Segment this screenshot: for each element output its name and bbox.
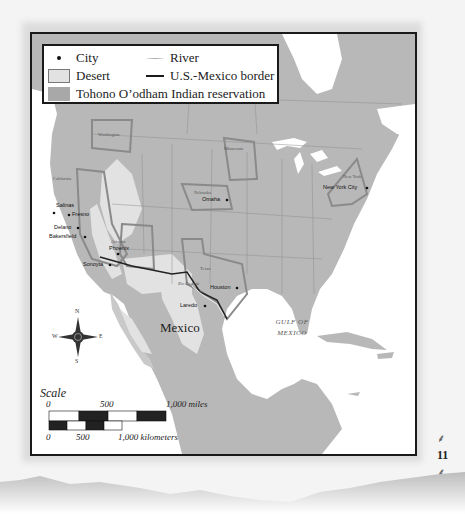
- river-line-icon: [146, 58, 164, 59]
- compass-s-label: S: [75, 358, 78, 364]
- city-label-new-york-city: New York City: [323, 184, 357, 190]
- scale-miles-1000: 1,000 miles: [166, 399, 208, 409]
- legend-desert-label: Desert: [76, 68, 110, 84]
- map-frame: City River Desert U.S.-Mexico border Toh…: [30, 32, 417, 456]
- reservation-swatch-icon: [48, 87, 70, 101]
- scale-miles-0: 0: [46, 399, 51, 409]
- gulf-label-line1: GULF OF: [252, 317, 332, 328]
- legend-reservation: Tohono O’odham Indian reservation: [48, 86, 265, 102]
- scale-bar-km: [49, 421, 122, 430]
- country-label-mexico: Mexico: [160, 320, 200, 336]
- torn-paper-edge: [0, 470, 465, 514]
- city-label-delano: Delano: [54, 224, 71, 230]
- city-label-salinas: Salinas: [56, 202, 74, 208]
- city-label-phoenix: Phoenix: [109, 245, 129, 251]
- state-label-washington: Washington: [98, 132, 119, 137]
- state-label-new-york: New York: [343, 174, 361, 179]
- scale-title: Scale: [40, 386, 66, 401]
- caribbean-islands: [347, 352, 394, 396]
- legend-river: River: [146, 50, 199, 66]
- compass-w-label: W: [52, 333, 58, 339]
- desert-swatch-icon: [48, 69, 70, 83]
- legend-border: U.S.-Mexico border: [146, 68, 274, 84]
- compass-e-label: E: [99, 333, 103, 339]
- legend-city-label: City: [76, 50, 98, 66]
- state-label-arizona: Arizona: [111, 239, 126, 244]
- state-label-minnesota: Minnesota: [224, 146, 243, 151]
- city-label-laredo: Laredo: [180, 302, 197, 308]
- page-number: 11: [437, 448, 448, 463]
- legend-desert: Desert: [48, 68, 110, 84]
- city-label-houston: Houston: [210, 284, 231, 290]
- gulf-of-mexico-label: GULF OF MEXICO: [252, 317, 332, 339]
- border-line-icon: [146, 75, 164, 77]
- city-label-fresno: Fresno: [72, 211, 89, 217]
- state-label-texas: Texas: [200, 266, 210, 271]
- scale-km-1000: 1,000 kilometers: [118, 432, 178, 442]
- scale-miles-500: 500: [100, 399, 114, 409]
- city-label-omaha: Omaha: [202, 196, 220, 202]
- legend-river-label: River: [170, 50, 199, 66]
- city-label-sonoyta: Sonoyta: [83, 261, 103, 267]
- city-dot-icon: [57, 56, 61, 60]
- compass-rose-graphic: [58, 317, 98, 357]
- scale-km-0: 0: [46, 432, 51, 442]
- city-label-bakersfield: Bakersfield: [49, 233, 76, 239]
- river-label-rio-grande: Rio Grande: [178, 281, 199, 286]
- scale-km-500: 500: [76, 432, 90, 442]
- map-legend: City River Desert U.S.-Mexico border Toh…: [42, 44, 279, 104]
- ornament-top-icon: ⸙: [437, 430, 445, 445]
- gulf-label-line2: MEXICO: [252, 328, 332, 339]
- legend-border-label: U.S.-Mexico border: [170, 68, 274, 84]
- compass-n-label: N: [75, 308, 79, 314]
- legend-reservation-label: Tohono O’odham Indian reservation: [76, 86, 265, 102]
- legend-city: City: [48, 50, 98, 66]
- state-label-california: California: [53, 176, 71, 181]
- state-label-nebraska: Nebraska: [194, 190, 211, 195]
- scale-bar-miles: [49, 411, 166, 421]
